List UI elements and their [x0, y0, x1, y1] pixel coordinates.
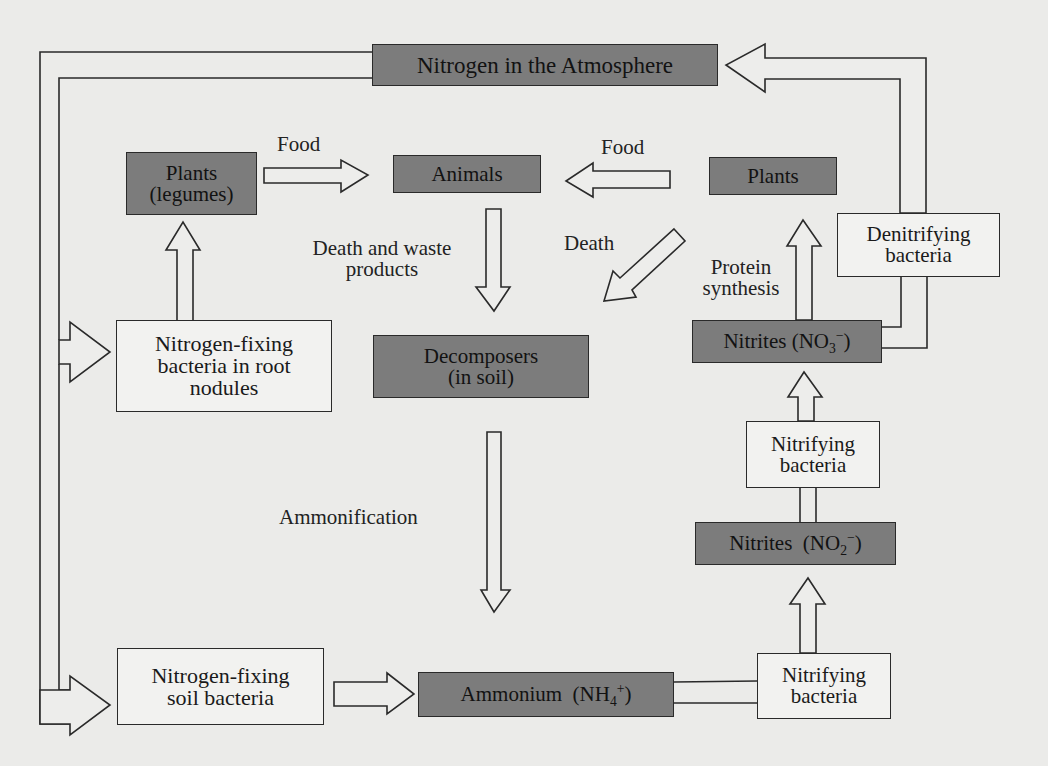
label-food-right: Food [601, 137, 644, 158]
ammonium-subscript: 4 [610, 694, 617, 709]
node-animals: Animals [393, 155, 541, 193]
label-protein-synthesis: Protein synthesis [686, 257, 796, 299]
arrow-to-root-nodules [59, 322, 110, 382]
label-ammonification: Ammonification [279, 507, 418, 528]
node-nitrates: Nitrites (NO3−) [692, 320, 882, 363]
arrow-legumes-to-animals [264, 160, 368, 192]
arrow-plants-to-animals [566, 163, 670, 197]
ammonium-to-nitrifying-line-1 [674, 681, 757, 682]
arrow-animals-to-decomposers [476, 209, 510, 311]
node-ammonium: Ammonium (NH4+) [418, 672, 674, 717]
nitrites-prefix: Nitrites (NO [729, 531, 840, 555]
arrow-root-nodules-to-legumes [166, 222, 200, 322]
node-nitrifying-bacteria-upper: Nitrifying bacteria [746, 421, 880, 488]
atmosphere-left-down-line [59, 364, 70, 690]
nitrites-superscript: − [847, 530, 855, 545]
node-decomposers: Decomposers (in soil) [373, 335, 589, 398]
nitrates-subscript: 3 [829, 341, 836, 356]
nitrates-prefix: Nitrites (NO [723, 329, 829, 353]
arrow-plants-death-to-decomposers [604, 229, 685, 301]
label-death: Death [564, 233, 614, 254]
ammonium-suffix: ) [624, 682, 631, 706]
node-nitrifying-bacteria-lower: Nitrifying bacteria [757, 653, 891, 719]
label-death-and-waste: Death and waste products [287, 238, 477, 280]
arrow-decomposers-to-ammonium [481, 432, 510, 612]
node-nitrogen-fixing-soil-bacteria: Nitrogen-fixing soil bacteria [117, 648, 324, 725]
nitrites-subscript: 2 [840, 543, 847, 558]
arrow-to-soil-bacteria [40, 676, 110, 735]
arrow-nitrifying-to-nitrates [788, 372, 822, 421]
nitrates-suffix: ) [844, 329, 851, 353]
node-plants: Plants [709, 157, 837, 195]
ammonium-prefix: Ammonium (NH [461, 682, 610, 706]
node-plants-legumes: Plants (legumes) [126, 152, 257, 215]
arrow-soil-bacteria-to-ammonium [334, 673, 414, 714]
node-denitrifying-bacteria: Denitrifying bacteria [837, 213, 1000, 277]
node-nitrites: Nitrites (NO2−) [695, 522, 896, 565]
nitrates-superscript: − [836, 328, 844, 343]
label-food-left: Food [277, 134, 320, 155]
nitrites-suffix: ) [855, 531, 862, 555]
node-nitrogen-atmosphere: Nitrogen in the Atmosphere [372, 44, 718, 86]
node-nitrogen-fixing-root-nodules: Nitrogen-fixing bacteria in root nodules [116, 320, 332, 412]
arrow-nitrifying-to-nitrites [790, 578, 825, 653]
nitrates-to-denitrifying-line-2 [882, 276, 927, 348]
nitrates-to-denitrifying-line-1 [882, 276, 901, 327]
